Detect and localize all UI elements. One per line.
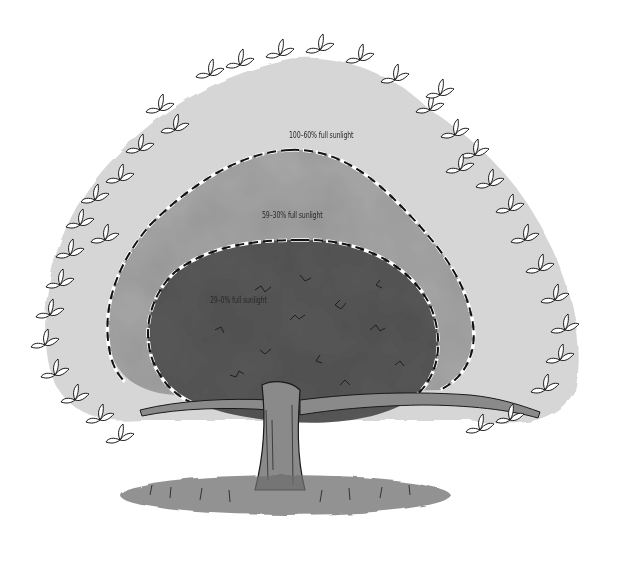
tree-illustration [0,0,618,564]
inner-zone-label: 29–0% full sunlight [210,295,267,305]
middle-zone-label: 59–30% full sunlight [262,210,323,220]
outer-zone-label: 100–60% full sunlight [289,130,353,140]
ground-shadow [120,475,450,515]
tree-light-zone-diagram: 100–60% full sunlight 59–30% full sunlig… [0,0,618,564]
